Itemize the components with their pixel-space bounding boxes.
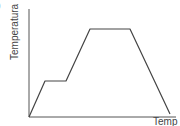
temperature-line: [29, 29, 170, 117]
line-plot: [0, 0, 180, 126]
